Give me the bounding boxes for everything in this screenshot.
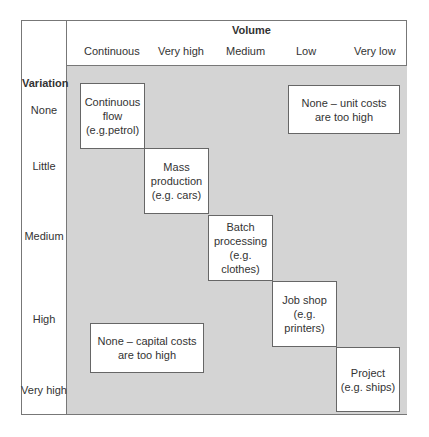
box-line: flow [85,109,141,123]
box-line: None – capital costs [97,334,196,348]
row-label: None [21,104,67,116]
project-box: Project(e.g. ships) [336,347,400,412]
box-line: (e.g.petrol) [85,123,141,137]
batch-processing-box: Batchprocessing(e.g. clothes) [208,215,273,281]
mass-production-box: Massproduction(e.g. cars) [144,148,209,214]
box-line: (e.g. cars) [151,188,202,202]
row-label: High [21,313,67,325]
row-label: Very high [21,384,67,396]
box-line: (e.g. printers) [273,307,336,335]
box-line: Project [341,366,395,380]
column-label: Medium [226,45,265,57]
job-shop-box: Job shop(e.g. printers) [272,281,337,347]
box-line: Continuous [85,95,141,109]
column-label: Very low [354,45,396,57]
box-line: (e.g. clothes) [209,248,272,276]
box-line: (e.g. ships) [341,380,395,394]
row-label: Medium [21,230,67,242]
box-line: Job shop [273,293,336,307]
column-label: Low [296,45,316,57]
column-label: Very high [158,45,204,57]
unit-costs-box: None – unit costsare too high [288,85,400,134]
box-line: Batch [209,220,272,234]
continuous-flow-box: Continuousflow(e.g.petrol) [80,83,145,149]
row-label: Little [21,160,67,172]
box-line: None – unit costs [302,96,387,110]
x-axis-title: Volume [232,24,271,36]
capital-costs-box: None – capital costsare too high [90,323,204,373]
box-line: production [151,174,202,188]
box-line: are too high [302,110,387,124]
box-line: processing [209,234,272,248]
box-line: Mass [151,160,202,174]
box-line: are too high [97,348,196,362]
y-axis-title: Variation [22,77,68,89]
column-label: Continuous [84,45,140,57]
